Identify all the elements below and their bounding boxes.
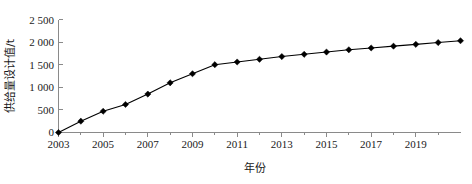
x-tick-label: 2003 bbox=[48, 138, 71, 150]
data-point-marker bbox=[55, 129, 61, 135]
x-tick-label: 2009 bbox=[181, 138, 204, 150]
data-point-marker bbox=[100, 108, 106, 114]
y-tick-label: 500 bbox=[38, 104, 55, 116]
y-axis-title: 供给量设计值/t bbox=[3, 38, 17, 113]
data-point-marker bbox=[167, 80, 173, 86]
data-point-marker bbox=[346, 47, 352, 53]
y-axis-ticks bbox=[59, 20, 63, 133]
x-tick-label: 2017 bbox=[360, 138, 383, 150]
y-tick-label: 1 500 bbox=[29, 59, 54, 71]
y-tick-label: 1 000 bbox=[29, 81, 54, 93]
x-tick-label: 2007 bbox=[137, 138, 160, 150]
x-tick-label: 2015 bbox=[315, 138, 338, 150]
series-line bbox=[59, 41, 461, 133]
data-point-marker bbox=[78, 118, 84, 124]
x-axis-ticks bbox=[59, 133, 416, 137]
x-tick-label: 2011 bbox=[226, 138, 248, 150]
data-point-marker bbox=[301, 51, 307, 57]
y-tick-label: 2 500 bbox=[29, 14, 54, 26]
data-point-marker bbox=[145, 91, 151, 97]
y-tick-label: 0 bbox=[49, 126, 55, 138]
y-axis-tick-labels: 2 500 2 000 1 500 1 000 500 0 bbox=[29, 14, 54, 138]
data-point-marker bbox=[234, 59, 240, 65]
y-tick-label: 2 000 bbox=[29, 36, 54, 48]
line-chart: 供给量设计值/t 2 500 2 000 1 500 1 000 500 0 bbox=[0, 0, 472, 184]
data-point-marker bbox=[279, 53, 285, 59]
data-point-marker bbox=[212, 62, 218, 68]
data-point-marker bbox=[256, 56, 262, 62]
data-point-marker bbox=[122, 101, 128, 107]
data-point-marker bbox=[435, 39, 441, 45]
data-point-marker bbox=[368, 45, 374, 51]
x-tick-label: 2013 bbox=[271, 138, 294, 150]
data-point-marker bbox=[457, 38, 463, 44]
x-tick-label: 2019 bbox=[405, 138, 428, 150]
series-markers bbox=[55, 38, 463, 136]
data-point-marker bbox=[323, 49, 329, 55]
x-axis-title: 年份 bbox=[244, 161, 266, 175]
chart-figure: 供给量设计值/t 2 500 2 000 1 500 1 000 500 0 bbox=[0, 0, 472, 184]
data-point-marker bbox=[189, 71, 195, 77]
data-point-marker bbox=[390, 43, 396, 49]
data-point-marker bbox=[413, 41, 419, 47]
x-tick-label: 2005 bbox=[92, 138, 115, 150]
x-axis-tick-labels: 2003 2005 2007 2009 2011 2013 2015 2017 … bbox=[48, 138, 428, 150]
